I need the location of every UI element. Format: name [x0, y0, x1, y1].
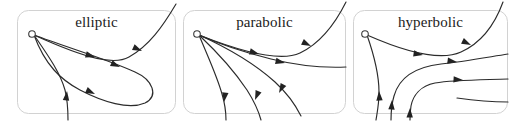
hyperbolic-phase-portrait: [353, 10, 508, 114]
singular-point-marker: [194, 31, 201, 38]
panel-parabolic: parabolic: [183, 10, 346, 114]
panel-frame: [354, 11, 508, 114]
elliptic-phase-portrait: [17, 10, 176, 114]
panel-hyperbolic: hyperbolic: [353, 10, 508, 114]
singular-point-marker: [29, 31, 36, 38]
panel-elliptic: elliptic: [17, 10, 176, 114]
parabolic-phase-portrait: [183, 10, 346, 114]
singular-point-marker: [362, 31, 369, 38]
panel-frame: [184, 11, 346, 114]
sector-types-figure: elliptic parabolic: [0, 0, 521, 126]
